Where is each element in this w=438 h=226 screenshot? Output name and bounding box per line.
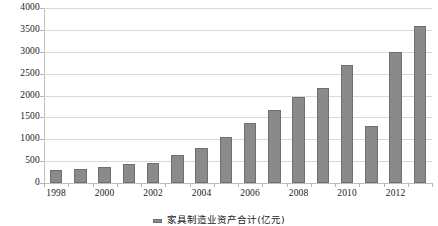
bar-2012	[389, 52, 402, 183]
bar-2010	[341, 65, 354, 183]
bar-2007	[268, 110, 281, 184]
bar-1998	[50, 170, 63, 183]
x-axis-label-1998: 1998	[46, 189, 66, 199]
legend-label: 家具制造业资产合计(亿元)	[167, 215, 284, 225]
y-axis-label-3000: 3000	[0, 47, 40, 57]
bar-series	[44, 8, 432, 183]
x-axis-tick-14	[384, 183, 385, 187]
y-axis-label-0: 0	[0, 178, 40, 188]
bar-2005	[220, 137, 233, 183]
x-axis-tick-4	[141, 183, 142, 187]
x-axis-tick-1	[68, 183, 69, 187]
x-axis-label-2004: 2004	[192, 189, 212, 199]
x-axis-tick-13	[359, 183, 360, 187]
x-axis-label-2002: 2002	[143, 189, 163, 199]
bar-2004	[195, 148, 208, 183]
x-axis-label-2000: 2000	[95, 189, 115, 199]
x-axis-label-2010: 2010	[337, 189, 357, 199]
y-axis-label-3500: 3500	[0, 25, 40, 35]
legend: 家具制造业资产合计(亿元)	[0, 215, 438, 226]
x-axis-tick-7	[214, 183, 215, 187]
y-axis-label-4000: 4000	[0, 3, 40, 13]
x-axis-tick-6	[190, 183, 191, 187]
bar-2009	[317, 88, 330, 183]
y-axis-label-2500: 2500	[0, 69, 40, 79]
y-axis-labels: 05001000150020002500300035004000	[0, 0, 40, 226]
x-axis-tick-5	[165, 183, 166, 187]
x-axis-labels: 19982000200220042006200820102012	[44, 189, 432, 205]
x-axis-tick-8	[238, 183, 239, 187]
x-axis-label-2006: 2006	[240, 189, 260, 199]
x-axis-tick-11	[311, 183, 312, 187]
bar-2013	[414, 26, 427, 184]
legend-swatch-icon	[153, 219, 162, 223]
x-axis-tick-16	[432, 183, 433, 187]
bar-2000	[98, 167, 111, 183]
bar-2003	[171, 155, 184, 183]
x-axis-tick-12	[335, 183, 336, 187]
bar-2008	[292, 97, 305, 183]
x-axis-tick-15	[408, 183, 409, 187]
x-axis-tick-3	[117, 183, 118, 187]
bar-chart: 05001000150020002500300035004000 1998200…	[0, 0, 438, 226]
y-axis-label-1000: 1000	[0, 135, 40, 145]
bar-2011	[365, 126, 378, 183]
x-axis-tick-2	[93, 183, 94, 187]
x-axis-label-2008: 2008	[289, 189, 309, 199]
y-axis-label-2000: 2000	[0, 91, 40, 101]
x-axis-tick-10	[287, 183, 288, 187]
x-axis-tick-9	[262, 183, 263, 187]
y-axis-label-1500: 1500	[0, 113, 40, 123]
bar-2001	[123, 164, 136, 183]
x-axis-tick-0	[44, 183, 45, 187]
x-axis-label-2012: 2012	[386, 189, 406, 199]
y-axis-label-500: 500	[0, 156, 40, 166]
bar-2006	[244, 123, 257, 183]
bar-1999	[74, 169, 87, 183]
bar-2002	[147, 163, 160, 183]
